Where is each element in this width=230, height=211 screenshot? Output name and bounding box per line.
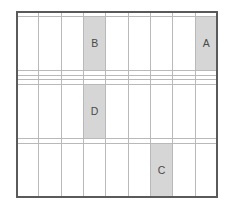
grid-cell-a[interactable]: A bbox=[195, 16, 217, 70]
grid-cell[interactable] bbox=[106, 16, 128, 70]
grid-cell[interactable] bbox=[61, 84, 83, 138]
grid-cell[interactable] bbox=[128, 84, 150, 138]
grid-cell[interactable] bbox=[39, 84, 61, 138]
grid-cell[interactable] bbox=[173, 16, 195, 70]
grid-cell[interactable] bbox=[17, 16, 39, 70]
grid-cell-b[interactable]: B bbox=[83, 16, 105, 70]
grid-cell[interactable] bbox=[173, 143, 195, 197]
grid-cell-c[interactable]: C bbox=[150, 143, 172, 197]
grid-cell-d[interactable]: D bbox=[83, 84, 105, 138]
grid-cell[interactable] bbox=[39, 143, 61, 197]
grid-row: C bbox=[17, 143, 218, 197]
grid-figure: BADC bbox=[16, 11, 218, 198]
grid-cell[interactable] bbox=[61, 143, 83, 197]
grid-cell[interactable] bbox=[128, 143, 150, 197]
grid-cell[interactable] bbox=[150, 84, 172, 138]
grid-cell[interactable] bbox=[83, 143, 105, 197]
grid-cell[interactable] bbox=[39, 16, 61, 70]
grid-cell[interactable] bbox=[195, 84, 217, 138]
grid-cell[interactable] bbox=[173, 84, 195, 138]
grid-cell[interactable] bbox=[150, 16, 172, 70]
grid-cell[interactable] bbox=[17, 143, 39, 197]
grid-cell[interactable] bbox=[61, 16, 83, 70]
grid-row: BA bbox=[17, 16, 218, 70]
grid-cell[interactable] bbox=[128, 16, 150, 70]
grid-cell[interactable] bbox=[106, 84, 128, 138]
grid-cell[interactable] bbox=[17, 84, 39, 138]
grid-cell-label: D bbox=[84, 106, 105, 117]
grid-cell-label: C bbox=[151, 165, 172, 176]
grid-cell[interactable] bbox=[195, 143, 217, 197]
grid-row: D bbox=[17, 84, 218, 138]
grid-cell[interactable] bbox=[106, 143, 128, 197]
grid-table: BADC bbox=[16, 11, 218, 198]
grid-cell-label: B bbox=[84, 38, 105, 49]
grid-cell-label: A bbox=[196, 38, 217, 49]
grid-body: BADC bbox=[17, 12, 218, 198]
